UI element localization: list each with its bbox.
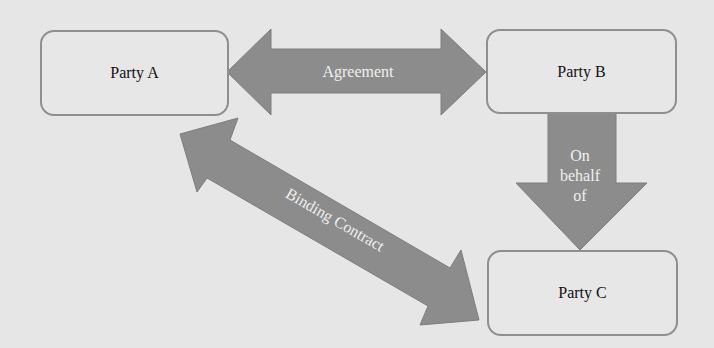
party-c-label: Party C — [558, 284, 606, 302]
on-behalf-of-line-3: of — [545, 186, 615, 206]
diagram-canvas: Party A Party B Party C Agreement On beh… — [0, 0, 714, 348]
party-c-node: Party C — [487, 250, 678, 336]
on-behalf-of-line-2: behalf — [545, 166, 615, 186]
on-behalf-of-line-1: On — [545, 146, 615, 166]
party-b-label: Party B — [557, 63, 605, 81]
agreement-label: Agreement — [298, 62, 418, 82]
party-b-node: Party B — [486, 29, 677, 114]
party-a-node: Party A — [40, 30, 229, 116]
on-behalf-of-label: On behalf of — [545, 146, 615, 206]
party-a-label: Party A — [110, 64, 158, 82]
